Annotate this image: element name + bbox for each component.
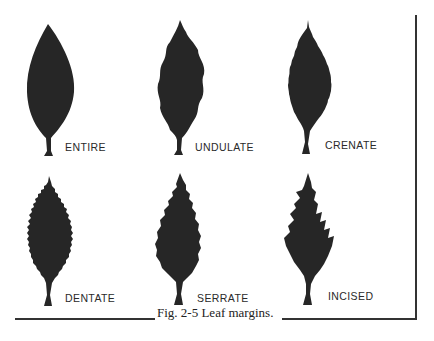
label-serrate: SERRATE: [197, 292, 249, 304]
leaf-incised-illustration: [282, 170, 342, 310]
label-undulate: UNDULATE: [195, 141, 254, 153]
leaf-margins-figure: ENTIRE UNDULATE CRENATE DENTATE SERRATE …: [0, 0, 434, 341]
leaf-serrate-illustration: [152, 170, 212, 310]
figure-frame-bottom-rule-right: [282, 318, 417, 320]
figure-frame-right-rule: [415, 15, 417, 320]
figure-frame-bottom-rule-left: [15, 318, 155, 320]
figure-caption: Fig. 2-5 Leaf margins.: [157, 305, 273, 321]
label-crenate: CRENATE: [325, 139, 377, 151]
label-entire: ENTIRE: [65, 141, 106, 153]
label-dentate: DENTATE: [65, 292, 115, 304]
label-incised: INCISED: [328, 290, 373, 302]
leaf-undulate-illustration: [152, 16, 212, 160]
leaf-entire-illustration: [22, 20, 82, 160]
